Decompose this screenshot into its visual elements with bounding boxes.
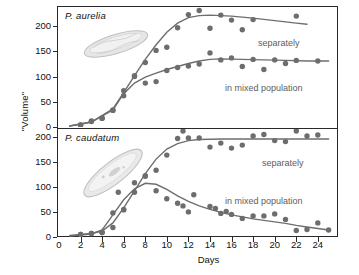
plot-top bbox=[57, 6, 338, 127]
data-point bbox=[186, 135, 191, 140]
data-point bbox=[250, 57, 255, 62]
data-point bbox=[218, 57, 223, 62]
data-point bbox=[110, 108, 115, 113]
x-tick-mark bbox=[210, 237, 211, 242]
data-point bbox=[326, 227, 331, 232]
data-point bbox=[304, 227, 309, 232]
x-tick-mark bbox=[232, 237, 233, 242]
data-point bbox=[153, 188, 158, 193]
data-point bbox=[218, 140, 223, 145]
data-point bbox=[207, 144, 212, 149]
data-point bbox=[197, 135, 202, 140]
data-point bbox=[218, 12, 223, 17]
y-tick-label: 200 bbox=[17, 21, 51, 31]
data-point bbox=[207, 204, 212, 209]
data-point bbox=[99, 116, 104, 121]
data-point bbox=[110, 225, 115, 230]
data-point bbox=[175, 65, 180, 70]
x-tick-mark bbox=[167, 237, 168, 242]
data-point bbox=[213, 206, 218, 211]
data-point bbox=[132, 190, 137, 195]
data-point bbox=[294, 58, 299, 63]
x-tick-mark bbox=[145, 237, 146, 242]
data-point bbox=[315, 58, 320, 63]
x-tick-mark bbox=[296, 237, 297, 242]
x-axis-label-text: Days bbox=[198, 254, 220, 265]
data-point bbox=[175, 25, 180, 30]
y-tick-mark bbox=[53, 127, 57, 128]
curve-separately bbox=[70, 15, 307, 126]
x-tick-label: 0 bbox=[49, 240, 69, 250]
data-point bbox=[78, 232, 83, 237]
x-tick-mark bbox=[188, 237, 189, 242]
data-point bbox=[272, 211, 277, 216]
data-point bbox=[175, 201, 180, 206]
data-point bbox=[191, 192, 196, 197]
x-tick-mark bbox=[102, 237, 103, 242]
data-point bbox=[250, 17, 255, 22]
x-tick-mark bbox=[81, 237, 82, 242]
data-point bbox=[186, 12, 191, 17]
data-point bbox=[261, 213, 266, 218]
data-point bbox=[261, 132, 266, 137]
data-point bbox=[164, 68, 169, 73]
y-tick-label: 100 bbox=[17, 182, 51, 192]
data-point bbox=[164, 45, 169, 50]
data-point bbox=[250, 133, 255, 138]
curve-in-mixed-population bbox=[70, 183, 329, 236]
data-point bbox=[283, 61, 288, 66]
y-tick-label: 200 bbox=[17, 132, 51, 142]
data-point bbox=[240, 216, 245, 221]
data-point bbox=[315, 132, 320, 137]
data-point bbox=[153, 48, 158, 53]
data-point bbox=[207, 26, 212, 31]
y-tick-label: 150 bbox=[17, 46, 51, 56]
data-point bbox=[121, 88, 126, 93]
data-point bbox=[197, 8, 202, 13]
data-point bbox=[229, 145, 234, 150]
data-point bbox=[240, 64, 245, 69]
data-point bbox=[272, 57, 277, 62]
data-point bbox=[240, 27, 245, 32]
data-point bbox=[180, 129, 185, 134]
x-axis-label: Days bbox=[0, 254, 359, 265]
data-point bbox=[143, 174, 148, 179]
data-point bbox=[224, 209, 229, 214]
data-point bbox=[283, 139, 288, 144]
data-point bbox=[180, 203, 185, 208]
data-point bbox=[304, 133, 309, 138]
data-point bbox=[315, 220, 320, 225]
x-tick-mark bbox=[275, 237, 276, 242]
data-point bbox=[132, 73, 137, 78]
data-point bbox=[175, 136, 180, 141]
x-tick-mark bbox=[318, 237, 319, 242]
data-point bbox=[121, 93, 126, 98]
data-point bbox=[250, 213, 255, 218]
data-point bbox=[153, 79, 158, 84]
annotation-separately-top: separately bbox=[258, 38, 300, 48]
data-point bbox=[132, 180, 137, 185]
data-point bbox=[110, 210, 115, 215]
data-point bbox=[261, 67, 266, 72]
y-tick-mark bbox=[53, 237, 57, 238]
data-point bbox=[197, 61, 202, 66]
data-point bbox=[272, 138, 277, 143]
data-point bbox=[153, 168, 158, 173]
data-point bbox=[121, 207, 126, 212]
data-point bbox=[294, 129, 299, 134]
plot-bottom bbox=[57, 129, 338, 237]
population-growth-figure: "Volume" Days 050100150200050100150200 0… bbox=[0, 0, 359, 275]
y-tick-label: 100 bbox=[17, 72, 51, 82]
annotation-separately-bottom: separately bbox=[262, 158, 304, 168]
x-tick-mark bbox=[253, 237, 254, 242]
data-point bbox=[164, 152, 169, 157]
data-point bbox=[240, 142, 245, 147]
annotation-mixed-top: in mixed population bbox=[225, 83, 303, 93]
panel-p-caudatum: P. caudatum bbox=[57, 129, 338, 237]
y-tick-label: 50 bbox=[17, 207, 51, 217]
data-point bbox=[283, 217, 288, 222]
data-point bbox=[143, 80, 148, 85]
y-tick-label: 150 bbox=[17, 157, 51, 167]
data-point bbox=[99, 230, 104, 235]
data-point bbox=[164, 196, 169, 201]
